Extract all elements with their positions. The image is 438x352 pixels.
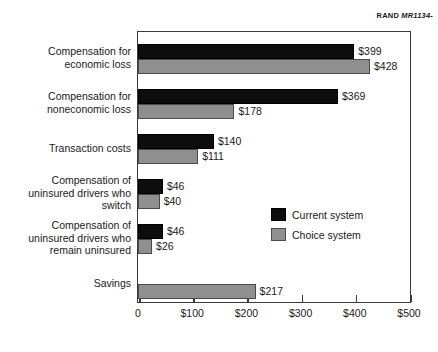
bar-value-label: $111 (198, 149, 224, 164)
x-axis-tick-mark (410, 295, 412, 302)
x-axis-tick-mark (302, 295, 304, 302)
bar-value-label: $140 (214, 134, 241, 149)
bar-value-label: $369 (338, 89, 365, 104)
category-label-line: noneconomic loss (47, 103, 131, 116)
category-label-line: Compensation of (28, 174, 131, 187)
category-axis-labels: Compensation foreconomic lossCompensatio… (0, 31, 131, 303)
bar-value-label: $46 (163, 224, 185, 239)
category-label: Savings (94, 277, 131, 290)
bar-choice-system (138, 149, 198, 164)
bar-choice-system (138, 239, 152, 254)
x-axis-tick-label: $400 (343, 307, 366, 319)
category-label: Compensation ofuninsured drivers whoswit… (28, 174, 131, 212)
bar-current-system (138, 44, 354, 59)
bar-value-label: $399 (354, 44, 381, 59)
category-label-line: uninsured drivers who (28, 187, 131, 200)
bar-choice-system (138, 59, 370, 74)
x-axis-tick-label: 0 (135, 307, 141, 319)
x-axis-tick-label: $500 (397, 307, 420, 319)
category-label-line: remain uninsured (28, 244, 131, 257)
legend-label: Current system (292, 209, 363, 221)
legend-item: Current system (271, 206, 363, 223)
bar-choice-system (138, 104, 234, 119)
x-axis-tick-mark (356, 295, 358, 302)
bar-choice-system (138, 194, 160, 209)
bar-value-label: $217 (256, 284, 283, 299)
bar-value-label: $46 (163, 179, 185, 194)
source-credit-organization: RAND (377, 11, 399, 20)
category-label: Compensation foreconomic loss (48, 45, 131, 70)
x-axis-tick-label: $200 (235, 307, 258, 319)
category-label-line: Compensation for (47, 90, 131, 103)
legend-swatch-current-system (271, 208, 286, 221)
bar-choice-system (138, 284, 256, 299)
legend-label: Choice system (292, 229, 361, 241)
category-label-line: Compensation of (28, 219, 131, 232)
category-label: Transaction costs (49, 142, 131, 155)
bar-current-system (138, 134, 214, 149)
category-label-line: Compensation for (48, 45, 131, 58)
x-axis-tick-label: $300 (289, 307, 312, 319)
category-label-line: Transaction costs (49, 142, 131, 155)
category-label-line: Savings (94, 277, 131, 290)
x-axis-tick-label: $100 (181, 307, 204, 319)
category-label-line: switch (28, 199, 131, 212)
category-label-line: economic loss (48, 58, 131, 71)
bar-value-label: $428 (370, 59, 397, 74)
source-credit-code: MR1134- (401, 11, 433, 20)
bar-current-system (138, 89, 338, 104)
chart-legend: Current systemChoice system (271, 206, 363, 246)
bar-value-label: $40 (160, 194, 182, 209)
bar-value-label: $178 (234, 104, 261, 119)
bar-value-label: $26 (152, 239, 174, 254)
category-label: Compensation fornoneconomic loss (47, 90, 131, 115)
bar-current-system (138, 179, 163, 194)
category-label-line: uninsured drivers who (28, 232, 131, 245)
x-axis-labels: 0$100$200$300$400$500 (0, 307, 438, 327)
legend-item: Choice system (271, 226, 363, 243)
plot-area: $399$428$369$178$140$111$46$40$46$26$217… (137, 31, 411, 303)
legend-swatch-choice-system (271, 228, 286, 241)
source-credit: RAND MR1134- (377, 11, 433, 20)
bar-current-system (138, 224, 163, 239)
category-label: Compensation ofuninsured drivers whorema… (28, 219, 131, 257)
